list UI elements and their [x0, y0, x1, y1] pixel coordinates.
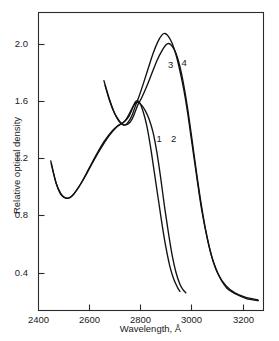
curve-2: [51, 102, 185, 293]
y-tick-label: 2.0: [0, 38, 28, 49]
y-tick-label: 0.4: [0, 267, 28, 278]
y-tick-label: 0.8: [0, 209, 28, 220]
x-tick-label: 3000: [172, 314, 212, 325]
data-curves: [51, 33, 259, 300]
x-tick-label: 3200: [224, 314, 264, 325]
curve-1: [51, 101, 180, 292]
curve-label-1: 1: [156, 133, 161, 144]
x-tick-label: 2600: [70, 314, 110, 325]
x-tick-label: 2800: [121, 314, 161, 325]
curve-label-2: 2: [171, 133, 176, 144]
curve-4: [104, 33, 258, 300]
axis-ticks: [39, 45, 244, 311]
chart-plot: [0, 0, 279, 341]
curve-label-3: 3: [168, 59, 173, 70]
plot-frame: [39, 13, 264, 311]
y-axis-label: Relative optical density: [11, 106, 22, 226]
curve-label-4: 4: [182, 57, 187, 68]
curve-3: [105, 43, 258, 300]
y-tick-label: 1.2: [0, 152, 28, 163]
figure-container: Relative optical density Wavelength, Å 0…: [0, 0, 279, 341]
y-tick-label: 1.6: [0, 95, 28, 106]
x-tick-label: 2400: [19, 314, 59, 325]
